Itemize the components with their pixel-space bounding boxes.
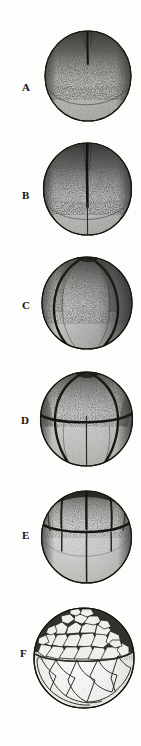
embryo-body-e xyxy=(38,488,135,586)
panel-label-e: E xyxy=(22,530,30,541)
animal-blastomeres-f xyxy=(38,608,129,660)
embryo-figure-f xyxy=(32,602,136,714)
panel-label-c: C xyxy=(22,300,30,311)
embryo-figure-e xyxy=(38,488,135,586)
cleavage-stages-plate: A xyxy=(0,0,141,746)
panel-label-d: D xyxy=(21,415,29,426)
panel-label-f: F xyxy=(20,648,27,659)
embryo-body-b xyxy=(40,141,135,237)
embryo-body-a xyxy=(42,28,134,122)
panel-label-b: B xyxy=(22,190,30,201)
embryo-body-c xyxy=(38,254,136,352)
embryo-figure-a xyxy=(42,28,134,122)
blastula-body-f xyxy=(32,602,136,714)
embryo-figure-c xyxy=(38,254,136,352)
cleavage-furrow-a xyxy=(87,32,88,64)
embryo-figure-d xyxy=(37,369,136,469)
embryo-body-d xyxy=(37,369,136,469)
embryo-figure-b xyxy=(40,141,135,237)
panel-label-a: A xyxy=(22,82,30,93)
